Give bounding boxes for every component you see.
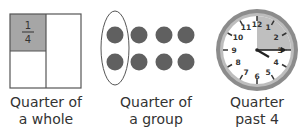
label-quarter-of-group: Quarter of a group [106, 94, 206, 128]
clock-number-8: 8 [235, 58, 240, 67]
clock-number-5: 5 [265, 68, 270, 77]
clock-number-9: 9 [231, 46, 236, 55]
dot [107, 54, 124, 71]
dot [178, 27, 195, 44]
clock-icon: 12 1 2 3 4 5 6 7 8 9 10 11 [216, 9, 298, 91]
clock-number-10: 10 [233, 33, 243, 42]
label-quarter-of-whole: Quarter of a whole [0, 94, 92, 128]
clock-number-11: 11 [241, 23, 251, 32]
quarter-of-whole-square: 1 4 [10, 14, 81, 88]
dot [107, 27, 124, 44]
clock-number-7: 7 [243, 68, 248, 77]
dot [156, 54, 173, 71]
clock-number-12: 12 [252, 20, 262, 29]
clock-number-1: 1 [265, 23, 270, 32]
clock-number-2: 2 [273, 33, 278, 42]
dot [131, 27, 148, 44]
fraction-numerator: 1 [25, 20, 31, 31]
dot [156, 27, 173, 44]
quarter-of-group-dots [101, 11, 195, 85]
dot [131, 54, 148, 71]
fraction-denominator: 4 [25, 34, 31, 45]
label-quarter-past: Quarter past 4 [222, 94, 292, 128]
clock-number-4: 4 [273, 58, 278, 67]
clock-number-6: 6 [254, 72, 259, 81]
dot [178, 54, 195, 71]
